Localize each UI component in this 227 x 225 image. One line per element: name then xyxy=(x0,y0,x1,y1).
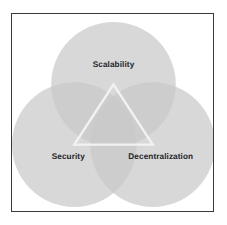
label-security: Security xyxy=(52,153,85,161)
label-decentralization: Decentralization xyxy=(128,153,193,161)
diagram-frame: Scalability Security Decentralization xyxy=(11,13,214,212)
label-scalability: Scalability xyxy=(93,61,135,69)
venn-graphic xyxy=(12,14,213,211)
venn-diagram-root: Scalability Security Decentralization xyxy=(0,0,227,225)
venn-circles xyxy=(12,22,213,207)
